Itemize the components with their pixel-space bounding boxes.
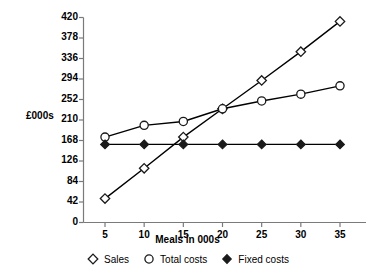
legend-item-total-costs: Total costs [142, 252, 207, 266]
data-point-fixed-costs [336, 140, 345, 149]
y-axis-tick-label: 210 [40, 113, 78, 124]
x-axis-tick-label: 25 [242, 229, 282, 240]
x-axis-tick-label: 20 [203, 229, 243, 240]
legend-item-fixed-costs: Fixed costs [220, 252, 289, 266]
open-diamond-icon [86, 252, 100, 266]
data-point-total-costs [179, 117, 187, 125]
x-axis-tick-label: 5 [85, 229, 125, 240]
y-axis-tick-label: 420 [40, 11, 78, 22]
legend-label: Fixed costs [238, 254, 289, 265]
y-axis-tick-label: 0 [40, 216, 78, 227]
filled-diamond-icon [220, 252, 234, 266]
x-axis-tick-label: 35 [320, 229, 360, 240]
x-axis-tick-label: 30 [281, 229, 321, 240]
line-chart: £000s Meals in 000s SalesTotal costsFixe… [0, 0, 375, 277]
x-axis-tick-label: 15 [163, 229, 203, 240]
data-point-total-costs [336, 82, 344, 90]
data-point-total-costs [297, 90, 305, 98]
data-point-total-costs [140, 121, 148, 129]
x-axis-tick-label: 10 [124, 229, 164, 240]
legend-label: Sales [104, 254, 129, 265]
legend-label: Total costs [160, 254, 207, 265]
data-point-total-costs [258, 97, 266, 105]
y-axis-tick-label: 294 [40, 72, 78, 83]
open-circle-icon [142, 252, 156, 266]
legend-item-sales: Sales [86, 252, 129, 266]
data-point-fixed-costs [296, 140, 305, 149]
y-axis-tick-label: 336 [40, 52, 78, 63]
data-point-sales [257, 76, 266, 85]
y-axis-tick-label: 168 [40, 134, 78, 145]
chart-legend: SalesTotal costsFixed costs [0, 252, 375, 266]
y-axis-tick-label: 126 [40, 154, 78, 165]
data-point-total-costs [218, 105, 226, 113]
data-point-fixed-costs [257, 140, 266, 149]
y-axis-tick-label: 252 [40, 93, 78, 104]
data-point-fixed-costs [140, 140, 149, 149]
y-axis-tick-label: 378 [40, 31, 78, 42]
data-point-fixed-costs [101, 140, 110, 149]
data-point-fixed-costs [179, 140, 188, 149]
y-axis-tick-label: 84 [40, 175, 78, 186]
data-point-fixed-costs [218, 140, 227, 149]
y-axis-tick-label: 42 [40, 195, 78, 206]
